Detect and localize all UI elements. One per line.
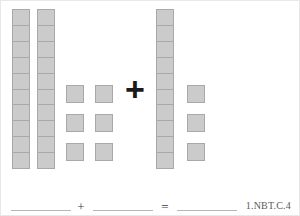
rod-cell — [156, 120, 174, 137]
rod-cell — [37, 89, 55, 106]
plus-operator-icon: + — [122, 76, 148, 102]
rod-cell — [156, 25, 174, 42]
rod-cell — [12, 104, 30, 121]
rod-cell — [156, 136, 174, 153]
tens-rod — [156, 9, 174, 169]
worksheet-page: + + = 1.NBT.C.4 — [0, 0, 300, 216]
rod-cell — [12, 89, 30, 106]
answer-row: + = 1.NBT.C.4 — [1, 185, 299, 215]
ones-cube — [187, 114, 205, 132]
standard-code-label: 1.NBT.C.4 — [246, 200, 291, 212]
tens-rod — [37, 9, 55, 169]
ones-cube — [66, 114, 84, 132]
rod-cell — [37, 120, 55, 137]
rod-cell — [12, 25, 30, 42]
rod-cell — [37, 41, 55, 58]
rod-cell — [12, 120, 30, 137]
ones-cube — [95, 85, 113, 103]
answer-blank-left[interactable] — [11, 210, 71, 211]
rod-cell — [12, 73, 30, 90]
rod-cell — [12, 9, 30, 26]
rod-cell — [156, 152, 174, 169]
rod-cell — [37, 73, 55, 90]
rod-cell — [12, 152, 30, 169]
rod-cell — [156, 41, 174, 58]
rod-cell — [37, 25, 55, 42]
answer-blank-sum[interactable] — [177, 210, 237, 211]
rod-cell — [12, 41, 30, 58]
rod-cell — [37, 9, 55, 26]
ones-cube — [187, 85, 205, 103]
answer-equals-operator: = — [157, 200, 173, 213]
rod-cell — [37, 57, 55, 74]
rod-cell — [37, 152, 55, 169]
rod-cell — [12, 136, 30, 153]
ones-cube — [66, 143, 84, 161]
rod-cell — [156, 73, 174, 90]
ones-cube — [66, 85, 84, 103]
answer-blank-right[interactable] — [93, 210, 153, 211]
ones-cube — [187, 143, 205, 161]
rod-cell — [156, 104, 174, 121]
rod-cell — [37, 104, 55, 121]
tens-rod — [12, 9, 30, 169]
rod-cell — [156, 57, 174, 74]
ones-cube — [95, 143, 113, 161]
ones-cube — [95, 114, 113, 132]
rod-cell — [156, 89, 174, 106]
rod-cell — [156, 9, 174, 26]
rod-cell — [12, 57, 30, 74]
answer-plus-operator: + — [73, 200, 89, 213]
rod-cell — [37, 136, 55, 153]
